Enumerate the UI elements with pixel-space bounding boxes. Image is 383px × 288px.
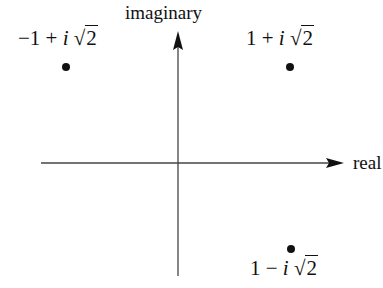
sqrt-arg: 2 bbox=[301, 25, 314, 50]
point-neg1-plus-i-root2 bbox=[62, 63, 70, 71]
sqrt-expression: √2 bbox=[294, 258, 318, 279]
point-1-minus-i-root2 bbox=[287, 245, 295, 253]
sqrt-expression: √2 bbox=[74, 28, 98, 49]
real-axis-label: real bbox=[353, 153, 381, 172]
sqrt-arg: 2 bbox=[305, 255, 318, 280]
operator: + bbox=[46, 26, 58, 50]
sqrt-expression: √2 bbox=[290, 28, 314, 49]
imag-unit: i bbox=[63, 26, 69, 50]
imag-unit: i bbox=[283, 256, 289, 280]
label-1-plus-i-root2: 1 + i √2 bbox=[246, 28, 314, 49]
real-part: 1 bbox=[246, 26, 257, 50]
point-1-plus-i-root2 bbox=[286, 63, 294, 71]
real-part: −1 bbox=[18, 26, 40, 50]
label-neg1-plus-i-root2: −1 + i √2 bbox=[18, 28, 98, 49]
imag-unit: i bbox=[279, 26, 285, 50]
imaginary-axis-label: imaginary bbox=[125, 3, 202, 22]
real-part: 1 bbox=[250, 256, 261, 280]
sqrt-arg: 2 bbox=[85, 25, 98, 50]
sqrt-sign: √ bbox=[290, 26, 302, 50]
sqrt-sign: √ bbox=[294, 256, 306, 280]
sqrt-sign: √ bbox=[74, 26, 86, 50]
operator: − bbox=[266, 256, 278, 280]
operator: + bbox=[262, 26, 274, 50]
label-1-minus-i-root2: 1 − i √2 bbox=[250, 258, 318, 279]
